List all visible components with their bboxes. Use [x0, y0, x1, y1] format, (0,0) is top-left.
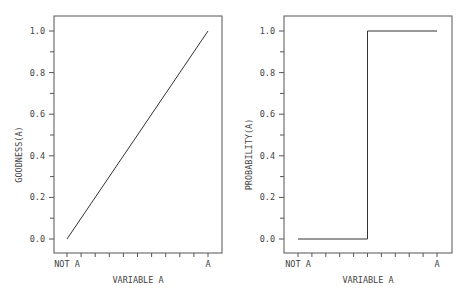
goodness-line	[67, 31, 208, 239]
y-tick-label: 0.6	[260, 109, 275, 119]
y-tick-label: 0.4	[260, 151, 275, 161]
y-tick-label: 1.0	[260, 26, 275, 36]
y-tick-label: 0.8	[30, 68, 45, 78]
x-axis-label: VARIABLE A	[342, 275, 393, 285]
chart-canvas: 0.00.20.40.60.81.0NOT AAVARIABLE AGOODNE…	[0, 0, 465, 291]
y-tick-label: 0.6	[30, 109, 45, 119]
x-tick-label-start: NOT A	[54, 259, 80, 269]
y-tick-label: 0.4	[30, 151, 45, 161]
y-tick-label: 0.0	[260, 234, 275, 244]
y-tick-label: 0.8	[260, 68, 275, 78]
y-tick-label: 1.0	[30, 26, 45, 36]
y-tick-label: 0.2	[260, 192, 275, 202]
x-tick-label-end: A	[434, 259, 439, 269]
y-tick-label: 0.0	[30, 234, 45, 244]
y-axis-label: GOODNESS(A)	[14, 126, 24, 182]
x-tick-label-start: NOT A	[285, 259, 311, 269]
probability-line	[298, 31, 437, 239]
x-axis-label: VARIABLE A	[112, 275, 163, 285]
x-tick-label-end: A	[205, 259, 210, 269]
y-tick-label: 0.2	[30, 192, 45, 202]
y-axis-label: PROBABILITY(A)	[244, 119, 254, 191]
